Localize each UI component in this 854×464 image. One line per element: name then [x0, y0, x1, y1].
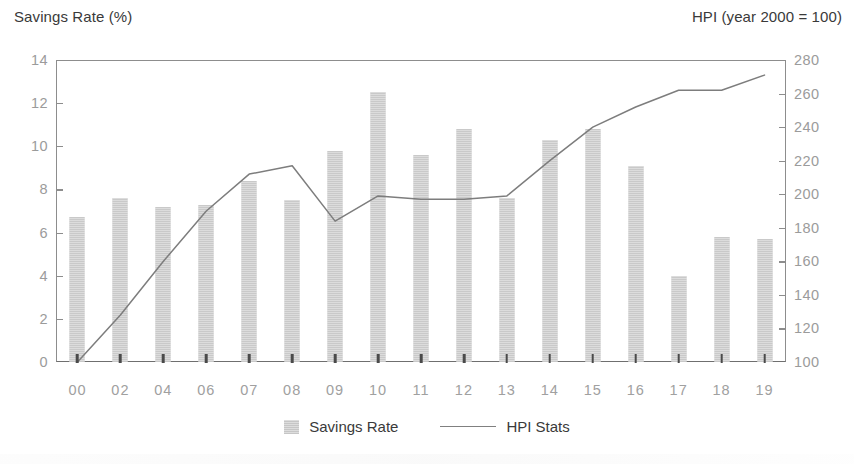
x-tick-label: 00 — [68, 382, 86, 398]
x-tick-label: 17 — [670, 382, 688, 398]
right-tick-label: 120 — [794, 320, 819, 336]
x-tick-mark — [506, 354, 509, 363]
legend-item-savings-rate: Savings Rate — [284, 418, 398, 435]
x-tick-mark — [76, 354, 79, 363]
x-tick-label: 16 — [627, 382, 645, 398]
x-tick-mark — [591, 354, 594, 363]
x-tick-mark — [720, 354, 723, 363]
x-tick-mark — [634, 354, 637, 363]
x-tick-mark — [463, 354, 466, 363]
left-axis-title: Savings Rate (%) — [14, 8, 132, 25]
left-tick-label: 10 — [31, 138, 48, 154]
right-tick-label: 260 — [794, 86, 819, 102]
chart-container: Savings Rate (%) HPI (year 2000 = 100) 0… — [0, 0, 854, 464]
left-tick-label: 14 — [31, 52, 48, 68]
legend-label-savings-rate: Savings Rate — [309, 418, 398, 435]
line-swatch-icon — [440, 426, 496, 427]
x-tick-label: 10 — [369, 382, 387, 398]
x-tick-mark — [549, 354, 552, 363]
right-tick-label: 100 — [794, 354, 819, 370]
right-tick-label: 200 — [794, 186, 819, 202]
x-tick-mark — [377, 354, 380, 363]
chart-legend: Savings Rate HPI Stats — [0, 418, 854, 435]
x-tick-label: 08 — [283, 382, 301, 398]
right-tick-label: 160 — [794, 253, 819, 269]
x-tick-label: 13 — [498, 382, 516, 398]
left-tick-label: 2 — [40, 311, 48, 327]
hpi-line-layer — [56, 60, 786, 362]
right-tick-label: 180 — [794, 220, 819, 236]
left-tick-label: 4 — [40, 268, 48, 284]
x-tick-label: 19 — [755, 382, 773, 398]
x-tick-mark — [334, 354, 337, 363]
left-tick-label: 12 — [31, 95, 48, 111]
plot-area — [56, 60, 786, 362]
x-tick-label: 15 — [584, 382, 602, 398]
x-tick-mark — [248, 354, 251, 363]
x-tick-mark — [205, 354, 208, 363]
right-axis-tick-labels: 100120140160180200220240260280 — [794, 60, 852, 362]
right-axis-title: HPI (year 2000 = 100) — [692, 8, 842, 25]
x-tick-mark — [291, 354, 294, 363]
legend-label-hpi-stats: HPI Stats — [506, 418, 569, 435]
x-tick-mark — [119, 354, 122, 363]
right-tick-label: 140 — [794, 287, 819, 303]
left-tick-label: 8 — [40, 181, 48, 197]
x-tick-label: 14 — [541, 382, 559, 398]
hpi-line-path — [78, 75, 765, 362]
scan-artifact — [0, 454, 854, 464]
x-tick-mark — [162, 354, 165, 363]
x-tick-label: 06 — [197, 382, 215, 398]
x-tick-mark — [420, 354, 423, 363]
x-tick-label: 12 — [455, 382, 473, 398]
right-tick-label: 280 — [794, 52, 819, 68]
left-tick-label: 6 — [40, 225, 48, 241]
x-tick-label: 18 — [713, 382, 731, 398]
x-tick-label: 04 — [154, 382, 172, 398]
bar-swatch-icon — [284, 420, 299, 434]
left-tick-label: 0 — [40, 354, 48, 370]
x-tick-label: 07 — [240, 382, 258, 398]
right-tick-label: 220 — [794, 153, 819, 169]
x-tick-label: 09 — [326, 382, 344, 398]
x-tick-label: 02 — [111, 382, 129, 398]
legend-item-hpi-stats: HPI Stats — [440, 418, 569, 435]
x-tick-label: 11 — [412, 382, 429, 398]
left-axis-tick-labels: 02468101214 — [0, 60, 48, 362]
right-tick-label: 240 — [794, 119, 819, 135]
x-tick-mark — [677, 354, 680, 363]
x-tick-mark — [763, 354, 766, 363]
